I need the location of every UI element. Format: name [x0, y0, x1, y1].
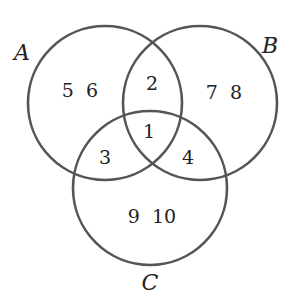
region-b-only: 7 8 — [206, 81, 242, 103]
region-b-c: 4 — [182, 146, 194, 168]
region-a-b-c: 1 — [143, 120, 155, 142]
set-b-circle — [123, 26, 277, 180]
set-b-label: B — [261, 33, 278, 58]
venn-diagram: A B C 5 6 2 7 8 1 3 4 9 10 — [0, 0, 306, 304]
region-a-only: 5 6 — [62, 79, 98, 101]
region-a-b: 2 — [146, 72, 158, 94]
region-c-only: 9 10 — [128, 205, 176, 227]
set-c-label: C — [142, 270, 159, 295]
set-a-label: A — [12, 40, 30, 65]
region-a-c: 3 — [99, 146, 111, 168]
